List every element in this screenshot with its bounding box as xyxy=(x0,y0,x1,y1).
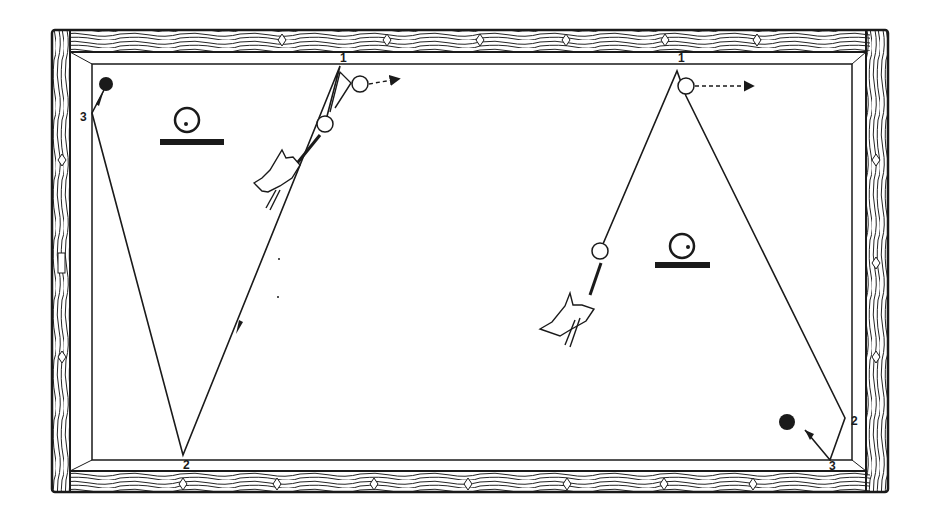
rail-contact-label-left-shot-2: 2 xyxy=(183,458,190,472)
side-pocket-marker xyxy=(58,253,65,273)
target-ball xyxy=(779,414,795,430)
cue-ball xyxy=(317,116,333,132)
target-ball xyxy=(99,77,113,91)
rail-contact-label-right-shot-3: 3 xyxy=(829,459,836,473)
table-frame xyxy=(52,30,888,492)
object-ball xyxy=(678,78,694,94)
table-cloth xyxy=(92,64,852,460)
object-ball xyxy=(352,76,368,92)
top-rail-wood xyxy=(70,31,870,51)
rail-contact-label-left-shot-3: 3 xyxy=(80,110,87,124)
rail-contact-label-right-shot-1: 1 xyxy=(678,51,685,65)
rail-contact-label-left-shot-1: 1 xyxy=(340,51,347,65)
cue-ball xyxy=(592,243,608,259)
rail-contact-label-right-shot-2: 2 xyxy=(851,414,858,428)
billiards-diagram: 123123 xyxy=(0,0,935,521)
